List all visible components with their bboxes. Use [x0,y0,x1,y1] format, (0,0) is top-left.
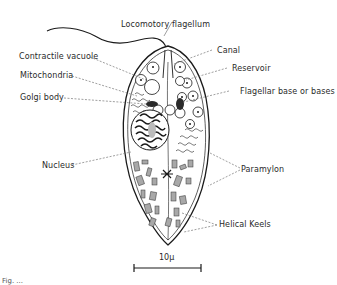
label-contractile-vacuole: Contractile vacuole [19,52,98,61]
golgi-body [146,101,158,107]
nucleus [131,110,169,150]
label-golgi-body: Golgi body [20,93,64,102]
scale-bar [134,264,201,272]
scale-bar-label: 10μ [159,253,174,262]
label-flagellar-base: Flagellar base or bases [240,87,335,96]
figure-caption: Fig. ... [2,277,23,285]
label-paramylon: Paramylon [241,165,284,174]
label-locomotory-flagellum: Locomotory flagellum [121,20,210,29]
label-helical-keels: Helical Keels [219,220,271,229]
label-mitochondria: Mitochondria [20,71,73,80]
euglena-diagram [0,0,337,285]
label-nucleus: Nucleus [42,161,75,170]
label-reservoir: Reservoir [232,64,271,73]
label-canal: Canal [217,46,240,55]
